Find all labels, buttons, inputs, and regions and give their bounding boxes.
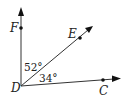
point-e: [78, 36, 82, 40]
label-d: D: [10, 81, 21, 95]
angle-label-edc: 34°: [39, 72, 58, 84]
label-e: E: [67, 27, 77, 41]
label-c: C: [99, 84, 108, 98]
arrow-head-c: [112, 76, 121, 83]
point-c: [101, 78, 105, 82]
arrow-head-f: [18, 7, 24, 16]
label-f: F: [9, 21, 19, 35]
angle-diagram: F E C D 52° 34°: [0, 0, 129, 103]
point-f: [19, 26, 23, 30]
